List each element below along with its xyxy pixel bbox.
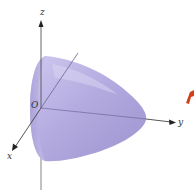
y-axis-label: y [178,118,183,127]
z-axis-label: z [40,8,45,17]
red-arrow-fragment [186,90,194,104]
y-axis-arrowhead [169,120,176,126]
y-axis [146,119,171,122]
paraboloid-diagram-svg [0,0,194,194]
x-axis-label: x [7,152,12,161]
paraboloid-figure: z O y x [0,0,194,194]
z-axis-arrowhead [39,20,44,27]
origin-label: O [31,101,38,110]
